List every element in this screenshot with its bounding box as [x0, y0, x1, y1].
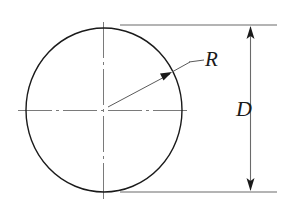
diameter-label: D [236, 98, 252, 120]
radius-leader-line [108, 74, 170, 107]
technical-drawing-canvas: R D [0, 0, 292, 211]
radius-leader-elbow [172, 62, 190, 72]
radius-leader-shelf [189, 60, 204, 62]
radius-arrowhead-icon [160, 72, 172, 81]
radius-label: R [205, 49, 218, 70]
